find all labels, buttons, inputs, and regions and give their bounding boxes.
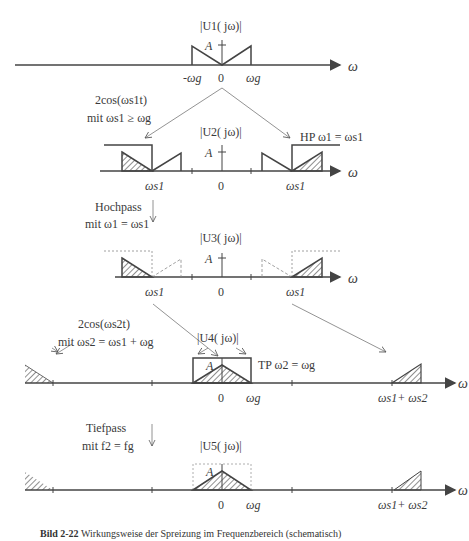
tick-label: -ωg [183,72,201,84]
lowpass-filter-label: TP ω2 = ωg [258,359,315,371]
highpass-filter-label: HP ω1 = ωs1 [300,131,363,143]
tick-label: ωs1 [286,180,305,192]
caption-number: Bild 2-22 [40,528,79,539]
omega-axis-label: ω [458,377,468,391]
panel-u3-title: |U3( jω)| [200,232,242,244]
tick-label: ωg [246,392,260,404]
tick-label: ωs1 [286,286,305,298]
tick-label: ωs1+ ωs2 [378,392,427,404]
highpass-condition: mit ω1 = ωs1 [85,218,149,230]
tick-label: 0 [218,180,224,192]
panel-u5 [25,464,455,493]
panel-u4-title: |U4( jω)| [197,332,239,344]
amplitude-label: A [206,466,213,478]
figure-caption: Bild 2-22 Wirkungsweise der Spreizung im… [40,528,341,539]
tick-label: 0 [218,72,224,84]
panel-u4 [25,358,455,386]
omega-axis-label: ω [348,272,358,286]
omega-axis-label: ω [348,60,358,74]
amplitude-label: A [205,147,212,159]
lowpass-condition: mit f2 = fg [82,440,134,452]
caption-text: Wirkungsweise der Spreizung im Frequenzb… [81,528,341,539]
omega-axis-label: ω [348,166,358,180]
amplitude-label: A [205,253,212,265]
mix1-condition: mit ωs1 ≥ ωg [87,112,151,124]
tick-label: ωs1 [145,180,164,192]
amplitude-label: A [205,40,212,52]
tick-label: ωg [246,499,260,511]
panel-u3 [104,251,340,280]
tick-label: ωs1 [145,286,164,298]
tick-label: 0 [218,499,224,511]
panel-u2-title: |U2( jω)| [200,126,242,138]
tick-label: 0 [218,392,224,404]
omega-axis-label: ω [458,484,468,498]
panel-u1 [15,40,340,65]
tick-label: ωg [246,72,260,84]
mix2-condition: mit ωs2 = ωs1 + ωg [58,336,154,348]
amplitude-label: A [206,360,213,372]
spectrum-diagram [0,0,469,541]
mix1-label: 2cos(ωs1t) [95,94,147,106]
panel-u2 [100,145,340,174]
panel-u5-title: |U5( jω)| [200,440,242,452]
panel-u1-title: |U1( jω)| [200,20,242,32]
tick-label: ωs1+ ωs2 [378,499,427,511]
tick-label: 0 [218,286,224,298]
mix2-label: 2cos(ωs2t) [78,318,130,330]
highpass-label: Hochpass [95,201,142,213]
lowpass-label: Tiefpass [86,422,126,434]
